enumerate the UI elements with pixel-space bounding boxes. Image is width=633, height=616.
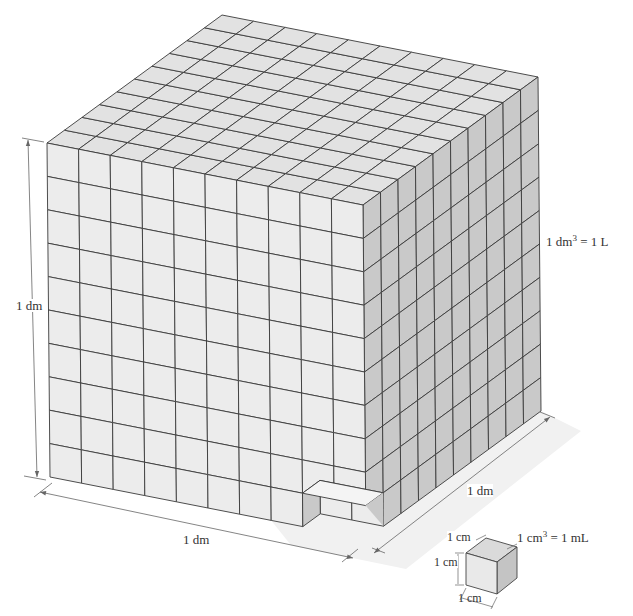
liter-equation: 1 dm3 = 1 L [546, 235, 608, 248]
milliliter-equation-lhs: 1 cm [517, 530, 543, 545]
small-cube-bottom-label: 1 cm [458, 592, 482, 604]
small-cube-height-label: 1 cm [434, 556, 458, 568]
big-cube-1dm [47, 15, 541, 527]
width-label-1dm: 1 dm [183, 533, 209, 546]
volume-diagram: 1 dm 1 dm 1 dm 1 dm3 = 1 L 1 cm 1 cm 1 c… [0, 0, 633, 616]
cube-illustration [0, 0, 633, 616]
height-label-1dm: 1 dm [16, 299, 42, 312]
milliliter-equation: 1 cm3 = 1 mL [517, 531, 589, 544]
depth-label-1dm: 1 dm [467, 484, 493, 497]
liter-equation-lhs: 1 dm [546, 234, 572, 249]
liter-equation-exponent: 3 [572, 233, 577, 243]
milliliter-equation-rhs: = 1 mL [550, 530, 588, 545]
milliliter-equation-exponent: 3 [543, 529, 548, 539]
liter-equation-rhs: = 1 L [580, 234, 608, 249]
small-cube-top-label: 1 cm [447, 531, 471, 543]
